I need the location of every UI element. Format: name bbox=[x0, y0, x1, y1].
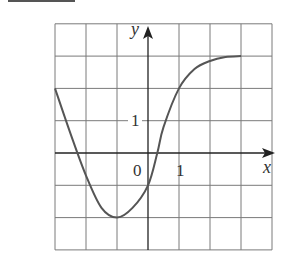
grid-lines bbox=[55, 24, 272, 250]
graph: 1 1 0 y x bbox=[0, 0, 288, 258]
x-tick-label: 1 bbox=[176, 161, 185, 180]
origin-label: 0 bbox=[133, 161, 142, 180]
x-axis-label: x bbox=[262, 157, 271, 177]
axes bbox=[55, 26, 275, 250]
y-tick-label: 1 bbox=[131, 111, 140, 130]
y-axis-label: y bbox=[129, 19, 139, 39]
